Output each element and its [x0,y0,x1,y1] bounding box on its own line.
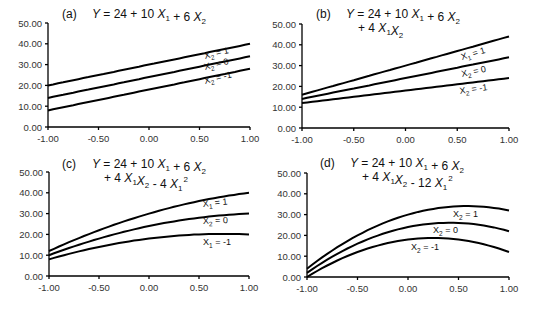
y-tick-label: 40.00 [272,39,296,50]
series-line [307,238,509,277]
panel-label: (c) [62,157,76,171]
panel-label: (d) [320,156,335,170]
series-label: X2 = 0 [433,225,458,237]
series-label: X2 = 0 [203,215,228,227]
y-tick-label: 0.00 [283,272,302,283]
y-tick-label: 40.00 [18,38,42,49]
y-tick-label: 50.00 [272,19,296,30]
x-tick-label: 1.00 [500,283,519,294]
y-tick-label: 20.00 [19,229,43,240]
series-label: X1 = -1 [203,237,231,249]
y-tick-label: 50.00 [18,18,42,29]
y-tick-label: 0.00 [24,122,43,133]
x-tick-label: 1.00 [240,282,259,293]
chart-panel-b: 0.0010.0020.0030.0040.0050.00-1.00-0.500… [272,7,518,145]
series-line [307,206,509,269]
y-tick-label: 20.00 [18,80,42,91]
y-tick-label: 20.00 [277,230,301,241]
panel-label: (b) [316,7,331,21]
x-tick-label: 1.00 [241,133,260,144]
x-tick-label: 0.00 [140,282,159,293]
y-tick-label: 40.00 [277,188,301,199]
chart-panel-a: 0.0010.0020.0030.0040.0050.00-1.00-0.500… [18,7,259,144]
figure: 0.0010.0020.0030.0040.0050.00-1.00-0.500… [0,0,534,312]
y-tick-label: 50.00 [19,167,43,178]
series-label: X2 = -1 [459,82,488,97]
x-tick-label: 0.00 [399,283,418,294]
y-tick-label: 30.00 [19,208,43,219]
x-tick-label: 0.50 [190,133,209,144]
x-tick-label: 0.00 [396,134,415,145]
y-tick-label: 30.00 [272,60,296,71]
x-tick-label: 0.50 [449,283,468,294]
y-tick-label: 30.00 [18,59,42,70]
equation-line: Y = 24 + 10 X1 + 6 X2 [92,7,207,26]
y-tick-label: 10.00 [277,251,301,262]
x-tick-label: -1.00 [38,282,60,293]
y-tick-label: 20.00 [272,81,296,92]
series-label: X1 = 1 [202,196,228,210]
x-tick-label: -0.50 [88,133,110,144]
x-tick-label: 0.50 [190,282,209,293]
series-label: X2 = -1 [203,69,233,87]
equation-line: + 4 X1X2 - 4 X12 [104,171,188,193]
equation-line: + 4 X1X2 - 12 X12 [362,170,453,192]
y-tick-label: 10.00 [19,250,43,261]
y-tick-label: 30.00 [277,209,301,220]
x-tick-label: -1.00 [37,133,59,144]
x-tick-label: 0.00 [140,133,159,144]
y-tick-label: 10.00 [272,102,296,113]
chart-panel-c: 0.0010.0020.0030.0040.0050.00-1.00-0.500… [19,157,258,293]
series-label: X1 = 1 [460,45,487,63]
series-label: X2 = -1 [411,242,439,254]
equation-line: + 4 X1X2 [358,21,404,40]
x-tick-label: -0.50 [343,134,365,145]
x-tick-label: 0.50 [448,134,467,145]
chart-panel-d: 0.0010.0020.0030.0040.0050.00-1.00-0.500… [277,156,518,294]
panel-label: (a) [62,7,77,21]
x-tick-label: -1.00 [296,283,318,294]
x-tick-label: 1.00 [500,134,519,145]
y-tick-label: 40.00 [19,187,43,198]
x-tick-label: -0.50 [347,283,369,294]
y-tick-label: 0.00 [278,123,297,134]
x-tick-label: -1.00 [291,134,313,145]
series-label: X2 = 1 [453,209,478,221]
x-tick-label: -0.50 [88,282,110,293]
y-tick-label: 0.00 [25,271,44,282]
y-tick-label: 50.00 [277,168,301,179]
y-tick-label: 10.00 [18,101,42,112]
